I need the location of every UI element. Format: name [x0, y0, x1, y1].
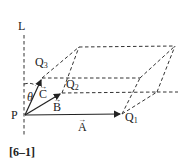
arrow-b-icon: → [53, 95, 61, 104]
angle-arc [24, 83, 36, 86]
vector-a [25, 114, 120, 115]
edge-q2-right [62, 92, 157, 93]
label-q3: Q3 [35, 55, 48, 70]
edge-far-vertical [157, 46, 175, 92]
edge-q1-up [122, 78, 140, 114]
parallelepiped-diagram: L P θ Q3 Q2 Q1 C → B → A → [6–1] [0, 0, 189, 163]
label-p: P [11, 108, 18, 122]
figure-caption: [6–1] [9, 145, 35, 159]
edge-right-top [140, 46, 175, 78]
arrow-c-icon: → [39, 82, 47, 91]
label-theta: θ [27, 90, 33, 104]
parallelepiped-edges [42, 46, 178, 114]
label-q2: Q2 [66, 77, 79, 92]
label-l: L [18, 19, 25, 33]
arrow-a-icon: → [78, 115, 86, 124]
edge-top-back [79, 46, 175, 47]
label-q1: Q1 [125, 110, 138, 125]
